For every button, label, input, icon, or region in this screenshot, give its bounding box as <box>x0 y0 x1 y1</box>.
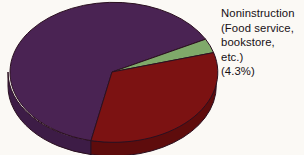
callout-line-3: bookstore, <box>221 35 304 50</box>
slice-callout-noninstruction: Noninstruction (Food service, bookstore,… <box>221 6 304 79</box>
callout-line-5: (4.3%) <box>221 64 304 79</box>
callout-line-4: etc.) <box>221 50 304 65</box>
pie-top-faces <box>10 2 218 142</box>
pie-chart-figure: Noninstruction (Food service, bookstore,… <box>0 0 304 155</box>
callout-line-2: (Food service, <box>221 21 304 36</box>
callout-line-1: Noninstruction <box>221 6 304 21</box>
